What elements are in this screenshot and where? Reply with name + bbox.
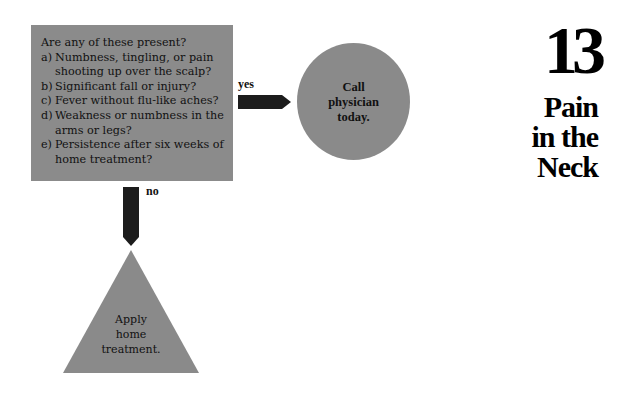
yes-label: yes [238, 77, 254, 92]
outcome-line: treatment. [62, 342, 200, 357]
question-item-letter: c) [41, 94, 55, 109]
question-item-text: Fever without flu-like aches? [55, 94, 225, 109]
home-treatment-text: Apply home treatment. [62, 312, 200, 357]
chapter-title-line: Pain [531, 92, 598, 122]
call-physician-text: Call physician today. [314, 80, 394, 125]
chapter-number: 13 [544, 16, 600, 84]
question-item-text: Significant fall or injury? [55, 80, 225, 95]
question-box: Are any of these present? a) Numbness, t… [31, 25, 233, 181]
question-item-text: Numbness, tingling, or pain shooting up … [55, 51, 225, 80]
chapter-title: Pain in the Neck [531, 92, 598, 182]
question-item-b: b) Significant fall or injury? [41, 80, 225, 95]
outcome-line: Apply [62, 312, 200, 327]
call-physician-circle: Call physician today. [297, 43, 410, 160]
question-title: Are any of these present? [41, 36, 225, 51]
outcome-line: physician [314, 95, 394, 110]
question-item-letter: e) [41, 138, 55, 167]
question-item-letter: a) [41, 51, 55, 80]
chapter-title-line: in the [531, 122, 598, 152]
outcome-line: home [62, 327, 200, 342]
question-item-text: Persistence after six weeks of home trea… [55, 138, 225, 167]
no-label: no [146, 184, 159, 199]
arrow-down-icon [123, 187, 139, 247]
chapter-title-line: Neck [531, 152, 598, 182]
question-item-e: e) Persistence after six weeks of home t… [41, 138, 225, 167]
question-item-letter: b) [41, 80, 55, 95]
question-item-c: c) Fever without flu-like aches? [41, 94, 225, 109]
question-item-a: a) Numbness, tingling, or pain shooting … [41, 51, 225, 80]
question-item-text: Weakness or numbness in the arms or legs… [55, 109, 225, 138]
arrow-right-icon [238, 94, 292, 110]
outcome-line: today. [314, 110, 394, 125]
question-item-d: d) Weakness or numbness in the arms or l… [41, 109, 225, 138]
outcome-line: Call [314, 80, 394, 95]
question-item-letter: d) [41, 109, 55, 138]
